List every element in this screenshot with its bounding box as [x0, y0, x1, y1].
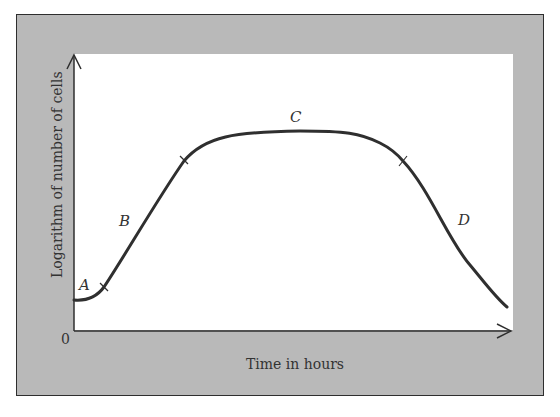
- phase-label-a: A: [79, 276, 90, 294]
- growth-curve-line: [74, 131, 507, 307]
- x-axis-label: Time in hours: [200, 356, 390, 372]
- y-axis-label: Logarithm of number of cells: [49, 108, 65, 278]
- origin-label: 0: [61, 331, 70, 347]
- phase-label-d: D: [458, 211, 470, 229]
- phase-label-c: C: [290, 108, 301, 126]
- growth-curve-chart: [0, 0, 560, 417]
- phase-label-b: B: [119, 212, 130, 230]
